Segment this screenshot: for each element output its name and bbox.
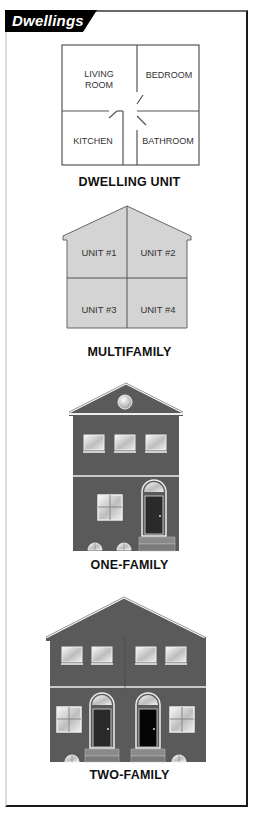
two-family-house bbox=[0, 0, 259, 823]
caption-two-family: TWO-FAMILY bbox=[0, 768, 259, 782]
